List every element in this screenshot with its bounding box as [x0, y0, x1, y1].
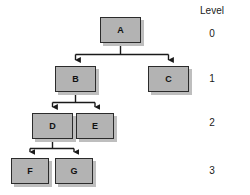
level-value-2: 2	[192, 118, 232, 128]
tree-node-b-label: B	[72, 75, 79, 84]
tree-diagram-canvas: A B C D E F G Level 0 1 2 3	[0, 0, 250, 195]
tree-node-d[interactable]: D	[32, 113, 73, 139]
tree-node-g-label: G	[70, 167, 77, 176]
level-value-3: 3	[192, 166, 232, 176]
tree-node-a[interactable]: A	[100, 17, 141, 43]
level-value-1: 1	[192, 74, 232, 84]
tree-node-g[interactable]: G	[55, 158, 93, 184]
tree-node-b[interactable]: B	[55, 66, 96, 92]
tree-node-a-label: A	[117, 26, 124, 35]
tree-node-e-label: E	[92, 122, 98, 131]
tree-node-e[interactable]: E	[76, 113, 114, 139]
tree-node-c[interactable]: C	[148, 66, 189, 92]
level-column-header: Level	[192, 6, 232, 16]
tree-node-f-label: F	[27, 167, 33, 176]
level-value-0: 0	[192, 29, 232, 39]
tree-node-d-label: D	[49, 122, 56, 131]
tree-node-c-label: C	[165, 75, 172, 84]
tree-node-f[interactable]: F	[11, 158, 49, 184]
